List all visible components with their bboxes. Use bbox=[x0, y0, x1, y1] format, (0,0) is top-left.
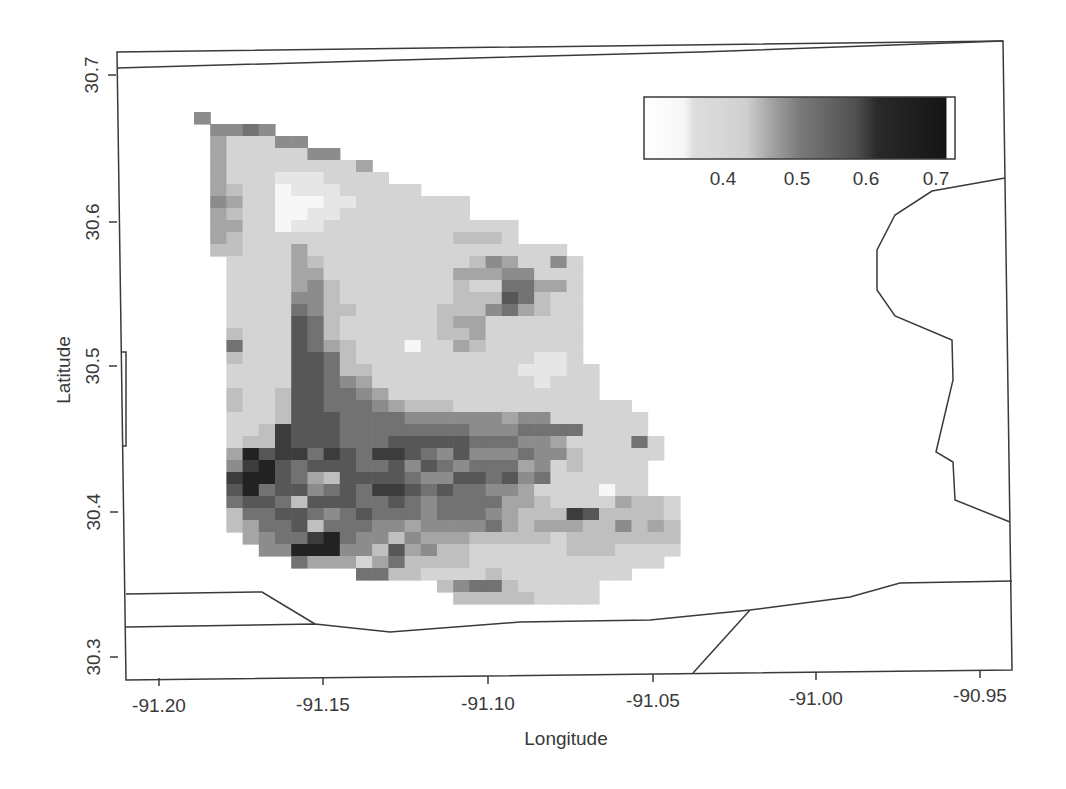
heatmap-cell bbox=[324, 160, 341, 173]
heatmap-cell bbox=[550, 424, 567, 437]
heatmap-cell bbox=[307, 208, 324, 221]
heatmap-cell bbox=[243, 316, 260, 329]
heatmap-cell bbox=[291, 484, 308, 497]
heatmap-cell bbox=[275, 496, 292, 509]
heatmap-cell bbox=[372, 532, 389, 545]
heatmap-cell bbox=[599, 412, 616, 425]
heatmap-cell bbox=[583, 388, 600, 401]
heatmap-cell bbox=[226, 196, 243, 209]
heatmap-cell bbox=[243, 256, 260, 269]
heatmap-cell bbox=[502, 340, 519, 353]
heatmap-cell bbox=[291, 256, 308, 269]
heatmap-cell bbox=[405, 304, 422, 317]
heatmap-cell bbox=[243, 184, 260, 197]
heatmap-cell bbox=[226, 484, 243, 497]
heatmap-cell bbox=[648, 520, 665, 533]
heatmap-cell bbox=[226, 520, 243, 533]
heatmap-cell bbox=[567, 280, 584, 293]
heatmap-cell bbox=[259, 232, 276, 245]
heatmap-cell bbox=[534, 388, 551, 401]
heatmap-cell bbox=[437, 424, 454, 437]
heatmap-cell bbox=[210, 184, 227, 197]
heatmap-cell bbox=[405, 388, 422, 401]
heatmap-cell bbox=[291, 232, 308, 245]
heatmap-cell bbox=[324, 244, 341, 257]
heatmap-cell bbox=[243, 400, 260, 413]
heatmap-cell bbox=[259, 124, 276, 137]
heatmap-cell bbox=[340, 484, 357, 497]
heatmap-cell bbox=[356, 196, 373, 209]
heatmap-cell bbox=[453, 496, 470, 509]
heatmap-cell bbox=[372, 544, 389, 557]
heatmap-cell bbox=[340, 460, 357, 473]
heatmap-cell bbox=[340, 508, 357, 521]
heatmap-cell bbox=[502, 580, 519, 593]
heatmap-cell bbox=[324, 544, 341, 557]
heatmap-cell bbox=[372, 268, 389, 281]
heatmap-cell bbox=[372, 292, 389, 305]
heatmap-cell bbox=[486, 268, 503, 281]
heatmap-cell bbox=[405, 184, 422, 197]
heatmap-cell bbox=[599, 436, 616, 449]
heatmap-cell bbox=[486, 376, 503, 389]
heatmap-cell bbox=[324, 556, 341, 569]
heatmap-cell bbox=[550, 388, 567, 401]
heatmap-cell bbox=[372, 376, 389, 389]
heatmap-cell bbox=[259, 136, 276, 149]
heatmap-cell bbox=[502, 460, 519, 473]
heatmap-cell bbox=[453, 316, 470, 329]
heatmap-cell bbox=[275, 376, 292, 389]
heatmap-cell bbox=[226, 160, 243, 173]
heatmap-cell bbox=[437, 472, 454, 485]
heatmap-cell bbox=[550, 256, 567, 269]
heatmap-cell bbox=[356, 496, 373, 509]
heatmap-cell bbox=[307, 532, 324, 545]
heatmap-cell bbox=[534, 520, 551, 533]
heatmap-cell bbox=[615, 544, 632, 557]
x-tick-label: -91.15 bbox=[296, 694, 350, 715]
heatmap-cell bbox=[437, 208, 454, 221]
heatmap-cell bbox=[372, 232, 389, 245]
heatmap-cell bbox=[275, 256, 292, 269]
heatmap-cell bbox=[243, 520, 260, 533]
heatmap-cell bbox=[405, 472, 422, 485]
heatmap-cell bbox=[631, 532, 648, 545]
heatmap-cell bbox=[388, 376, 405, 389]
heatmap-cell bbox=[259, 316, 276, 329]
heatmap-cell bbox=[453, 448, 470, 461]
colorbar: 0.4 0.5 0.6 0.7 bbox=[644, 97, 955, 189]
heatmap-cell bbox=[567, 592, 584, 605]
heatmap-cell bbox=[275, 340, 292, 353]
heatmap-cell bbox=[259, 364, 276, 377]
heatmap-cell bbox=[631, 544, 648, 557]
heatmap-cell bbox=[502, 544, 519, 557]
heatmap-cell bbox=[259, 472, 276, 485]
heatmap-cell bbox=[210, 160, 227, 173]
heatmap-cell bbox=[550, 508, 567, 521]
heatmap-cell bbox=[453, 340, 470, 353]
heatmap-cell bbox=[291, 388, 308, 401]
heatmap-cell bbox=[469, 412, 486, 425]
heatmap-cell bbox=[226, 316, 243, 329]
heatmap-cell bbox=[502, 244, 519, 257]
heatmap-cell bbox=[340, 208, 357, 221]
heatmap-cell bbox=[226, 220, 243, 233]
heatmap-cell bbox=[388, 400, 405, 413]
heatmap-cell bbox=[615, 472, 632, 485]
heatmap-cell bbox=[599, 508, 616, 521]
heatmap-cell bbox=[291, 532, 308, 545]
heatmap-cell bbox=[388, 232, 405, 245]
heatmap-cell bbox=[307, 496, 324, 509]
heatmap-cell bbox=[340, 172, 357, 185]
heatmap-cell bbox=[275, 160, 292, 173]
heatmap-cell bbox=[405, 256, 422, 269]
heatmap-cell bbox=[599, 520, 616, 533]
heatmap-cell bbox=[388, 472, 405, 485]
heatmap-cell bbox=[405, 352, 422, 365]
heatmap-cell bbox=[534, 424, 551, 437]
heatmap-cell bbox=[453, 472, 470, 485]
heatmap-cell bbox=[405, 208, 422, 221]
heatmap-cell bbox=[307, 328, 324, 341]
heatmap-cell bbox=[486, 568, 503, 581]
heatmap-cell bbox=[567, 448, 584, 461]
